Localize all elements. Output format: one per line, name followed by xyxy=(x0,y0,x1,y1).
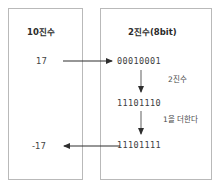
binary-twos-complement-value: 11101111 xyxy=(117,141,161,150)
note-add-one-label: 1을 더한다 xyxy=(163,116,198,124)
diagram-canvas: 10진수 2진수(8bit) 17 -17 00010001 11101110 … xyxy=(0,0,220,187)
binary-column-heading: 2진수(8bit) xyxy=(128,28,177,37)
decimal-column-heading: 10진수 xyxy=(27,28,55,37)
binary-original-value: 00010001 xyxy=(117,57,161,66)
decimal-positive-value: 17 xyxy=(36,57,47,66)
binary-complement-value: 11101110 xyxy=(117,99,161,108)
decimal-negative-value: -17 xyxy=(32,142,46,151)
note-complement-label: 2진수 xyxy=(168,76,187,84)
